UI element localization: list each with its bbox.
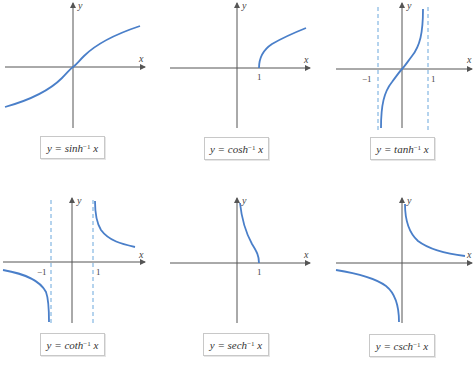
panel-sech: x y 1 [170,195,310,323]
panel-sinh: x y [5,0,145,128]
label-exponent: −1 [83,143,90,151]
label-text: y = tanh [376,143,413,155]
curve-coth-right [95,201,135,247]
panel-cosh: x y 1 [170,0,310,128]
label-coth: y = coth−1 x [40,333,105,356]
label-exponent: −1 [247,340,254,348]
tick-1: 1 [96,267,101,277]
curve-cosh [259,28,306,68]
label-exponent: −1 [413,341,420,349]
x-axis-label: x [466,249,472,260]
y-axis-label: y [406,0,412,11]
x-axis-label: x [303,249,309,260]
curve-csch-left [336,270,399,322]
curve-coth-left [3,270,49,322]
label-text: y = sinh [47,142,83,154]
panel-tanh: x y −1 1 [336,0,472,130]
label-var: x [423,340,428,352]
label-var: x [424,143,429,155]
y-axis-label: y [406,195,412,206]
curve-sech [240,203,259,263]
x-axis-label: x [138,249,144,260]
label-var: x [258,143,263,155]
panel-coth: x y −1 1 [3,195,145,325]
label-var: x [93,142,98,154]
tick-neg1: −1 [37,267,47,277]
x-axis-label: x [138,53,144,64]
y-axis-label: y [76,195,82,206]
label-text: y = csch [376,340,413,352]
label-var: x [94,339,99,351]
tick-1: 1 [257,72,262,82]
label-text: y = cosh [210,143,248,155]
label-cosh: y = cosh−1 x [204,137,269,160]
label-csch: y = csch−1 x [369,334,435,357]
x-axis-label: x [466,54,472,65]
curve-csch-right [405,204,465,256]
y-axis-label: y [241,0,247,11]
y-axis-label: y [77,0,83,11]
label-tanh: y = tanh−1 x [370,137,435,160]
tick-1: 1 [431,74,436,84]
panel-csch: x y [336,195,472,323]
label-exponent: −1 [414,144,421,152]
label-text: y = coth [47,339,84,351]
label-exponent: −1 [83,340,90,348]
tick-1: 1 [257,267,262,277]
y-axis-label: y [241,195,247,206]
label-text: y = sech [210,339,247,351]
x-axis-label: x [303,54,309,65]
label-var: x [257,339,262,351]
label-sech: y = sech−1 x [203,333,269,356]
inverse-hyperbolic-graphs: x y x y 1 x y −1 1 x y −1 1 [0,0,475,365]
tick-neg1: −1 [362,74,372,84]
label-exponent: −1 [248,144,255,152]
label-sinh: y = sinh−1 x [40,136,105,159]
